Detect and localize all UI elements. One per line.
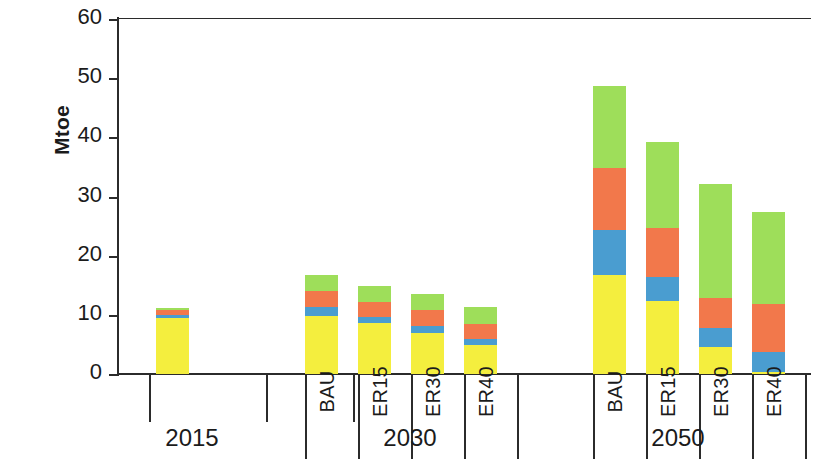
bar-segment-green [358, 286, 391, 303]
bar-segment-orange [752, 304, 785, 351]
bar-segment-blue [646, 277, 679, 301]
bar-segment-blue [411, 326, 444, 333]
bar-2050-er40 [752, 212, 785, 374]
x-group-label-2030: 2030 [320, 424, 500, 452]
y-tick-mark [109, 78, 118, 80]
y-tick-60: 60 [0, 19, 118, 21]
y-tick-40: 40 [0, 137, 118, 139]
x-category-label-er30-2030: ER30 [422, 353, 445, 431]
y-tick-50: 50 [0, 78, 118, 80]
bar-segment-orange [593, 168, 626, 230]
bar-2050-er30 [699, 184, 732, 374]
bar-segment-green [646, 142, 679, 228]
x-axis-separator [149, 375, 151, 422]
x-axis-separator [266, 375, 268, 422]
x-category-label-bau-2050: BAU [604, 353, 627, 431]
y-tick-mark [109, 256, 118, 258]
y-tick-label: 50 [78, 63, 102, 89]
x-category-label-er40-2030: ER40 [475, 353, 498, 431]
y-tick-mark [109, 374, 118, 376]
y-tick-mark [109, 19, 118, 21]
bar-segment-orange [464, 324, 497, 338]
y-tick-label: 0 [90, 359, 102, 385]
x-axis-separator [805, 375, 807, 459]
x-category-label-bau-2030: BAU [316, 353, 339, 431]
bar-segment-orange [358, 302, 391, 316]
bar-segment-orange [411, 310, 444, 325]
bar-segment-blue [699, 328, 732, 346]
x-axis-separator [305, 375, 307, 459]
x-category-label-er30-2050: ER30 [710, 353, 733, 431]
bar-2050-bau [593, 86, 626, 374]
y-tick-10: 10 [0, 315, 118, 317]
y-tick-0: 0 [0, 374, 118, 376]
y-tick-mark [109, 137, 118, 139]
bar-segment-green [593, 86, 626, 168]
x-group-label-2015: 2015 [102, 424, 282, 452]
x-category-label-er40-2050: ER40 [763, 353, 786, 431]
y-tick-mark [109, 315, 118, 317]
bar-segment-blue [305, 307, 338, 316]
y-axis-label: Mtoe [50, 70, 74, 190]
y-tick-label: 40 [78, 122, 102, 148]
x-category-label-er15-2030: ER15 [369, 353, 392, 431]
x-category-label-er15-2050: ER15 [657, 353, 680, 431]
x-axis-separator [517, 375, 519, 459]
y-tick-30: 30 [0, 197, 118, 199]
y-tick-label: 10 [78, 300, 102, 326]
bar-segment-orange [699, 298, 732, 328]
y-tick-label: 30 [78, 182, 102, 208]
plot-area [118, 19, 811, 374]
bar-segment-orange [305, 291, 338, 308]
y-tick-label: 20 [78, 241, 102, 267]
bar-segment-green [464, 307, 497, 325]
y-tick-label: 60 [78, 4, 102, 30]
bar-segment-blue [593, 230, 626, 275]
bar-segment-yellow [156, 318, 189, 374]
bar-2050-er15 [646, 142, 679, 374]
bar-segment-green [752, 212, 785, 304]
bar-segment-green [699, 184, 732, 299]
y-tick-mark [109, 197, 118, 199]
bar-segment-orange [646, 228, 679, 277]
bar-segment-green [411, 294, 444, 310]
x-group-label-2050: 2050 [588, 424, 768, 452]
bar-2015 [156, 308, 189, 374]
x-axis-separator [353, 375, 355, 422]
bar-segment-green [305, 275, 338, 290]
y-tick-20: 20 [0, 256, 118, 258]
stacked-bar-chart: Mtoe 0102030405060 BAUER15ER30ER40BAUER1… [0, 0, 813, 462]
